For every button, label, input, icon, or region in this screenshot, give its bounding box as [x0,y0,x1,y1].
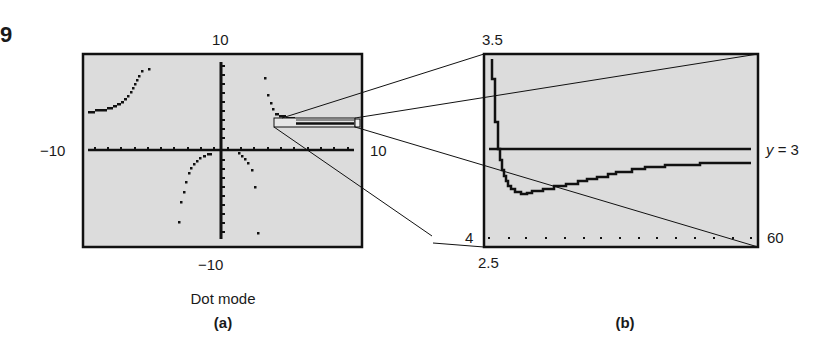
panel-b-screen [484,54,758,247]
panel-a-xmax-label: 10 [370,143,387,158]
figure-graphics [0,0,838,356]
panel-b-xmax-label: 60 [767,230,784,245]
panel-a-screen [83,54,362,247]
panel-a-ymax-label: 10 [212,32,229,47]
panel-b-ymin-label: 2.5 [478,255,499,270]
asymptote-equation: = 3 [774,141,799,158]
asymptote-label: y = 3 [766,142,799,157]
panel-a-xmin-label: −10 [40,143,65,158]
panel-b-xmin-label: 4 [465,230,473,245]
panel-a-caption-mode: Dot mode [173,291,273,306]
panel-b-ymax-label: 3.5 [482,32,503,47]
panel-a-ymin-label: −10 [198,257,223,272]
panel-a-caption-letter: (a) [198,315,248,330]
panel-b-caption-letter: (b) [600,315,650,330]
asymptote-variable: y [766,141,774,158]
